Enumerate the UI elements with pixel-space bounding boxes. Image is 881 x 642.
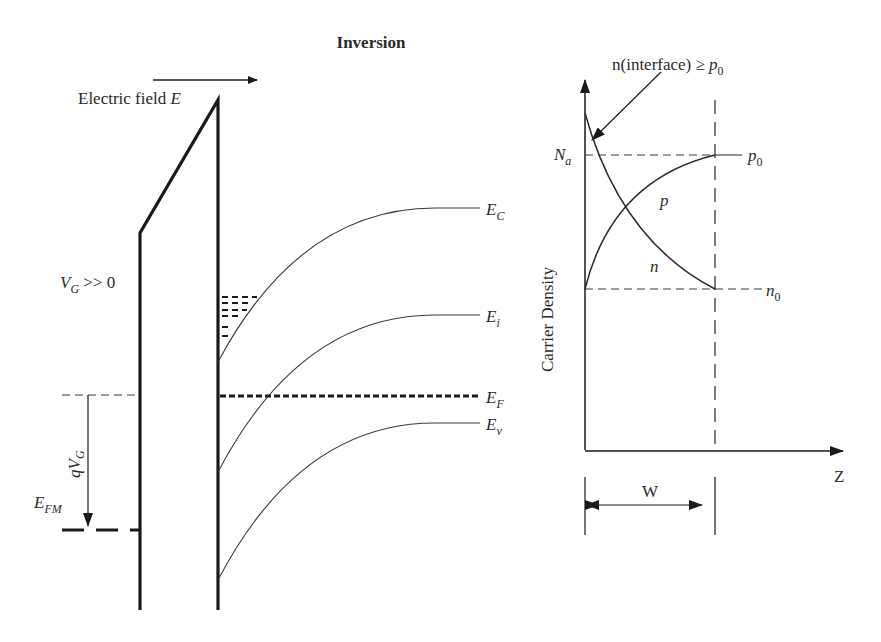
diagram-title: Inversion <box>337 33 407 52</box>
na-label: Na <box>553 145 571 168</box>
gate-voltage-label: VG >> 0 <box>60 273 115 296</box>
carrier-density-plot: n(interface) ≥ p0 Carrier Density Z Na p… <box>538 55 844 535</box>
valence-band <box>218 423 480 580</box>
qvg-label: qVG <box>65 450 87 478</box>
p-curve-label: p <box>659 191 669 210</box>
oxide-barrier <box>140 100 218 610</box>
electric-field-label: Electric field E <box>78 89 182 108</box>
conduction-band <box>218 208 480 362</box>
depletion-width-label: W <box>642 482 659 501</box>
p0-label: p0 <box>747 146 763 169</box>
interface-annotation: n(interface) ≥ p0 <box>612 55 724 78</box>
conduction-band-label: EC <box>485 200 505 223</box>
inversion-diagram: Inversion Electric field E VG >> 0 qVG E… <box>0 0 881 642</box>
efm-label: EFM <box>33 493 63 516</box>
y-axis-label: Carrier Density <box>538 266 557 372</box>
interface-pointer-arrow-icon <box>592 72 661 140</box>
interface-traps <box>222 297 257 336</box>
intrinsic-level <box>218 315 480 472</box>
valence-band-label: Ev <box>485 415 502 438</box>
fermi-level-label: EF <box>485 388 504 411</box>
n-curve-label: n <box>650 257 659 276</box>
intrinsic-level-label: Ei <box>485 307 500 330</box>
w-left-arrowhead-icon <box>586 500 599 510</box>
band-diagram: Electric field E VG >> 0 qVG EFM EC Ei <box>33 80 505 610</box>
x-axis-label: Z <box>834 467 844 486</box>
n0-label: n0 <box>766 281 781 304</box>
